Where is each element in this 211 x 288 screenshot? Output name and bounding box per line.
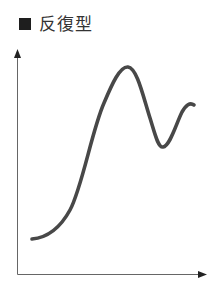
x-axis-arrow-icon xyxy=(198,271,207,278)
y-axis-arrow-icon xyxy=(14,49,21,58)
data-curve xyxy=(32,67,194,239)
line-chart xyxy=(0,0,211,288)
